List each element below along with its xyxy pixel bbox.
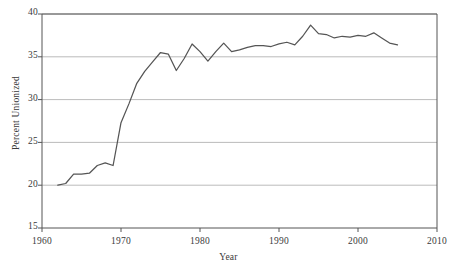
y-tick-label-20: 20	[14, 179, 38, 189]
axis-ticks	[38, 14, 437, 232]
x-tick-label-1970: 1970	[101, 236, 141, 246]
x-axis-title: Year	[0, 252, 457, 262]
x-tick-label-2000: 2000	[338, 236, 378, 246]
data-line-percent-unionized	[58, 25, 398, 185]
gridlines	[42, 14, 437, 185]
y-tick-label-15: 15	[14, 221, 38, 231]
chart-figure: 40 35 30 25 20 15 1960 1970 1980 1990 20…	[0, 0, 457, 272]
plot-frame	[42, 14, 437, 228]
x-tick-label-1980: 1980	[180, 236, 220, 246]
y-axis-title: Percent Unionized	[11, 53, 21, 173]
x-tick-label-1960: 1960	[22, 236, 62, 246]
line-chart-plot	[0, 0, 457, 272]
x-tick-label-2010: 2010	[417, 236, 457, 246]
x-tick-label-1990: 1990	[259, 236, 299, 246]
y-tick-label-40: 40	[14, 7, 38, 17]
